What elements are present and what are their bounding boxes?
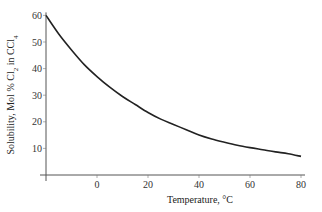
y-tick-label: 30 [32, 90, 42, 101]
x-axis-title: Temperature, °C [167, 194, 233, 205]
y-axis-title: Solubility, Mol % Cl2 in CCl4 [5, 35, 20, 155]
x-tick-labels: 020406080 [95, 179, 307, 190]
y-tick-label: 10 [32, 143, 42, 154]
x-tick-label: 80 [296, 179, 306, 190]
y-tick-label: 40 [32, 63, 42, 74]
y-axis [43, 12, 46, 181]
chart: 102030405060 020406080 Temperature, °C S… [0, 0, 322, 212]
x-tick-label: 20 [143, 179, 153, 190]
y-tick-label: 60 [32, 10, 42, 21]
x-tick-label: 60 [245, 179, 255, 190]
x-axis [40, 175, 305, 178]
x-tick-label: 40 [194, 179, 204, 190]
y-tick-label: 20 [32, 116, 42, 127]
x-tick-label: 0 [95, 179, 100, 190]
y-tick-label: 50 [32, 37, 42, 48]
y-tick-labels: 102030405060 [32, 10, 42, 154]
solubility-curve [46, 15, 301, 156]
